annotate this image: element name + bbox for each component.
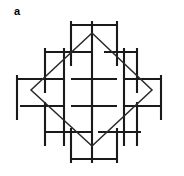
- figure-panel: a: [0, 0, 184, 176]
- horizontal-segments-group: [17, 25, 161, 159]
- vertical-segments-group: [17, 21, 161, 163]
- lattice-diamond-diagram: [0, 0, 184, 176]
